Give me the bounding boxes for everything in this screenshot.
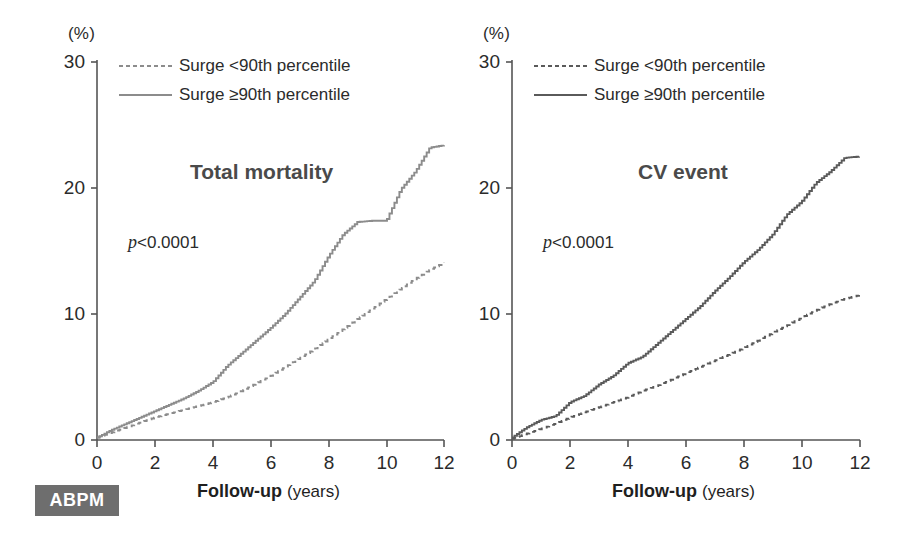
- curve-dashed: [512, 295, 859, 439]
- x-tick-4-left: 4: [196, 452, 230, 474]
- total-mortality-curves: [97, 145, 444, 437]
- x-tick-12-right: 12: [843, 452, 877, 474]
- figure-container: (%) 30 20 10 0 0 2 4 6 8 10 12 Surge <90…: [0, 0, 911, 536]
- axes-right: [506, 60, 860, 447]
- x-axis-title-bold-left: Follow-up: [197, 481, 282, 501]
- x-tick-6-right: 6: [669, 452, 703, 474]
- y-tick-20-left: 20: [51, 177, 85, 199]
- y-axis-unit-left: (%): [68, 24, 95, 44]
- p-value-number-left: <0.0001: [137, 233, 199, 252]
- x-tick-8-right: 8: [727, 452, 761, 474]
- cv-event-curves: [512, 157, 859, 439]
- y-tick-30-left: 30: [51, 51, 85, 73]
- axes-left: [91, 60, 444, 447]
- panel-title-total-mortality: Total mortality: [190, 160, 333, 184]
- x-axis-title-bold-right: Follow-up: [612, 481, 697, 501]
- y-tick-0-left: 0: [51, 429, 85, 451]
- x-tick-0-right: 0: [495, 452, 529, 474]
- legend-label-above-90th-right: Surge ≥90th percentile: [594, 85, 765, 105]
- x-tick-2-left: 2: [138, 452, 172, 474]
- y-tick-0-right: 0: [466, 429, 500, 451]
- legend-label-below-90th-right: Surge <90th percentile: [594, 56, 766, 76]
- x-axis-title-unit-right: (years): [702, 482, 755, 501]
- x-tick-10-right: 10: [785, 452, 819, 474]
- y-tick-30-right: 30: [466, 51, 500, 73]
- legend-label-below-90th-left: Surge <90th percentile: [179, 56, 351, 76]
- legend-lines-left: [119, 66, 172, 95]
- legend-lines-right: [534, 66, 587, 95]
- x-tick-0-left: 0: [80, 452, 114, 474]
- curve-solid: [97, 145, 444, 437]
- x-axis-title-unit-left: (years): [287, 482, 340, 501]
- x-tick-10-left: 10: [370, 452, 404, 474]
- chart-panel-total-mortality: (%) 30 20 10 0 0 2 4 6 8 10 12 Surge <90…: [0, 0, 460, 536]
- p-value-symbol-right: p: [543, 232, 552, 252]
- p-value-symbol-left: p: [128, 232, 137, 252]
- panel-title-cv-event: CV event: [638, 160, 728, 184]
- x-axis-title-right: Follow-up (years): [612, 481, 755, 502]
- chart-panel-cv-event: (%) 30 20 10 0 0 2 4 6 8 10 12 Surge <90…: [451, 0, 911, 536]
- x-tick-6-left: 6: [254, 452, 288, 474]
- p-value-number-right: <0.0001: [552, 233, 614, 252]
- x-axis-title-left: Follow-up (years): [197, 481, 340, 502]
- curve-solid: [512, 157, 859, 438]
- y-tick-10-right: 10: [466, 303, 500, 325]
- legend-label-above-90th-left: Surge ≥90th percentile: [179, 85, 350, 105]
- p-value-left: p<0.0001: [128, 232, 199, 253]
- x-tick-8-left: 8: [312, 452, 346, 474]
- x-tick-4-right: 4: [611, 452, 645, 474]
- x-tick-2-right: 2: [553, 452, 587, 474]
- p-value-right: p<0.0001: [543, 232, 614, 253]
- curve-dashed: [97, 262, 444, 437]
- y-axis-unit-right: (%): [483, 24, 510, 44]
- y-tick-20-right: 20: [466, 177, 500, 199]
- abpm-badge: ABPM: [35, 485, 119, 516]
- y-tick-10-left: 10: [51, 303, 85, 325]
